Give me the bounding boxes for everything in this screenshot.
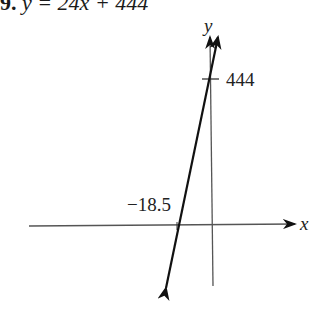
graph: y x 444 −18.5 bbox=[0, 0, 322, 316]
function-line bbox=[166, 37, 218, 288]
x-axis-label: x bbox=[299, 213, 309, 234]
y-intercept-label: 444 bbox=[226, 69, 255, 90]
y-axis-label: y bbox=[202, 15, 213, 36]
x-axis bbox=[29, 224, 295, 226]
x-intercept-label: −18.5 bbox=[127, 194, 171, 215]
